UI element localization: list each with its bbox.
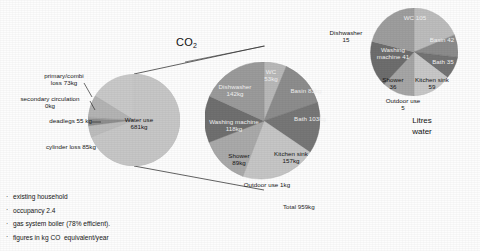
- label-dishwasher-litres: Dishwasher 15: [322, 29, 370, 44]
- label-shower-litres: Shower 36: [374, 76, 412, 91]
- note-item: existing household: [6, 190, 216, 204]
- litres-caption-line1: Litres: [392, 115, 452, 126]
- litres-water-caption: Litres water: [392, 115, 452, 137]
- label-bath-litres: Bath 35: [424, 58, 462, 65]
- litres-caption-line2: water: [392, 126, 452, 137]
- label-kitchen-sink-co2: Kitchen sink 157kg: [265, 150, 317, 165]
- label-wc-co2: WC 53kg: [253, 68, 289, 83]
- label-basin-litres: Basin 42: [422, 36, 462, 43]
- label-shower-co2: Shower 89kg: [217, 152, 261, 167]
- total-co2-label: Total 959kg: [283, 203, 315, 210]
- label-basin-co2: Basin 83kg: [283, 87, 329, 94]
- label-bath-co2: Bath 103kg: [286, 115, 334, 122]
- label-outdoor-use-litres: Outdoor use 5: [375, 97, 431, 112]
- note-item: gas system boiler (78% efficient).: [6, 217, 216, 231]
- label-wc-litres: WC 105: [392, 14, 438, 21]
- label-washing-machine-litres: Washing machine 41: [371, 46, 415, 61]
- label-washing-machine-co2: Washing machine 118kg: [200, 118, 268, 133]
- label-kitchen-sink-litres: Kitchen sink 59: [408, 76, 456, 91]
- note-item: occupancy 2.4: [6, 204, 216, 218]
- notes-list: existing household occupancy 2.4 gas sys…: [6, 190, 216, 244]
- note-item: figures in kg CO equivalent/year: [6, 231, 216, 245]
- figure-canvas: CO2 primary/combi loss 73kg secondary ci…: [0, 0, 480, 251]
- label-dishwasher-co2: Dishwasher 142kg: [209, 83, 261, 98]
- label-outdoor-use-co2: Outdoor use 1kg: [228, 181, 306, 188]
